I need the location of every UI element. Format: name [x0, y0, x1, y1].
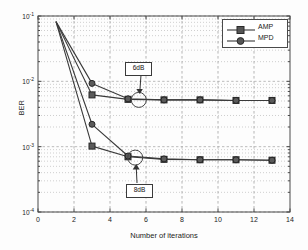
x-tick-0: 0: [28, 216, 48, 223]
legend-label-amp: AMP: [258, 23, 273, 30]
y-tick-1e-2: 10-2: [8, 76, 34, 85]
x-tick-2: 2: [64, 216, 84, 223]
legend-label-mpd: MPD: [258, 34, 274, 41]
x-axis-label: Number of iterations: [38, 231, 290, 240]
annotation-8db: 8dB: [126, 184, 153, 198]
annotation-6db: 6dB: [125, 62, 152, 76]
legend-sample-circle-icon: [226, 35, 256, 47]
y-tick-1e-3: 10-3: [8, 142, 34, 151]
x-tick-12: 12: [244, 216, 264, 223]
y-tick-1e-4: 10-4: [8, 207, 34, 216]
y-axis-label: BER: [18, 78, 25, 138]
ber-vs-iterations-chart: BER Number of iterations 02468101214 10-…: [0, 0, 308, 250]
y-tick-1e-1: 10-1: [8, 11, 34, 20]
legend-entry-mpd: MPD: [226, 33, 284, 45]
x-tick-4: 4: [100, 216, 120, 223]
x-tick-14: 14: [280, 216, 300, 223]
x-tick-6: 6: [136, 216, 156, 223]
legend: AMP MPD: [222, 19, 288, 48]
x-tick-10: 10: [208, 216, 228, 223]
x-tick-8: 8: [172, 216, 192, 223]
